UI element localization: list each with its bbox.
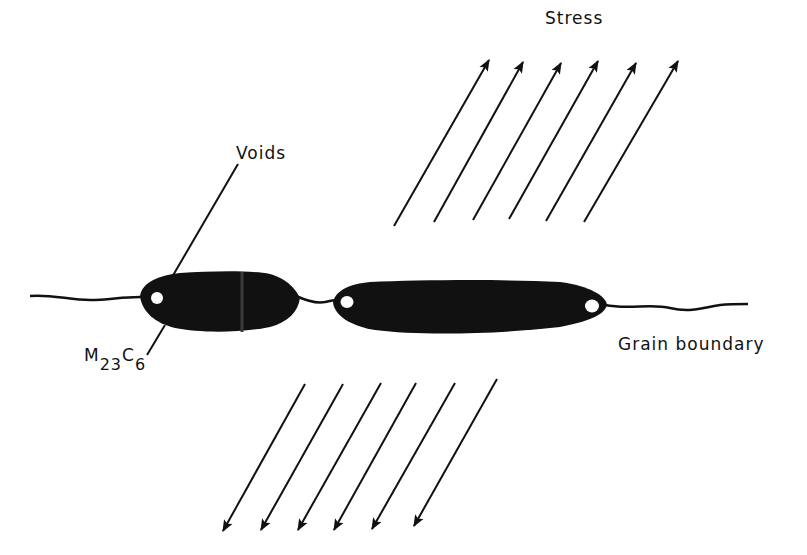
- grain-boundary-line: [30, 296, 145, 300]
- carbide-label-c: C: [122, 345, 135, 365]
- diagram-canvas: [0, 0, 807, 555]
- carbide-precipitate-right: [333, 280, 607, 333]
- stress-arrows-top: [394, 60, 678, 226]
- carbide-precipitate-left: [140, 271, 300, 331]
- voids-label: Voids: [236, 143, 286, 163]
- carbide-leader-line: [147, 325, 165, 355]
- carbide-label: M23C6: [84, 345, 146, 365]
- stress-arrows-bottom: [223, 379, 497, 531]
- stress-label: Stress: [545, 8, 603, 28]
- voids-leader-line: [168, 164, 238, 284]
- void-left: [151, 292, 163, 304]
- carbide-label-sub2: 6: [135, 355, 146, 374]
- grain-boundary-label: Grain boundary: [618, 334, 764, 354]
- carbide-label-sub1: 23: [100, 355, 122, 374]
- carbide-label-m: M: [84, 345, 100, 365]
- grain-boundary-line-right: [605, 304, 748, 310]
- void-mid: [341, 296, 354, 308]
- void-right: [585, 300, 599, 313]
